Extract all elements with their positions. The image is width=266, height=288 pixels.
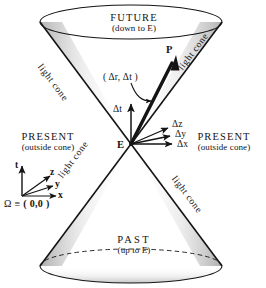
present-right-subtitle: (outside cone) [184,143,264,153]
axis-label-t: t [15,160,18,170]
axis-z-arrow [22,176,50,196]
vector-label-delta-t: Δt [113,104,122,114]
point-P-label: P [166,44,173,55]
present-right-title: PRESENT [188,131,260,142]
interval-text: ( Δr, Δt ) [103,72,138,82]
lightcone-figure: FUTURE (down to E) PAST (up to E) PRESEN… [0,0,266,288]
origin-value: ( 0,0 ) [23,198,49,209]
future-title: FUTURE [99,12,169,23]
axis-label-y: y [55,179,60,189]
interval-label: ( Δr, Δt ) [103,72,138,82]
vector-label-delta-x: Δx [177,139,188,149]
present-left-title: PRESENT [12,131,84,142]
origin-symbol: Ω [4,198,12,209]
past-cone-shade-bottom [40,266,222,283]
event-E-label: E [117,139,124,150]
past-subtitle: (up to E) [99,246,169,256]
future-subtitle: (down to E) [94,24,174,34]
event-apex-dot [129,142,133,146]
axis-label-z: z [50,167,54,177]
origin-relation: ≡ [15,198,21,209]
vector-label-delta-y: Δy [175,129,186,139]
axis-y-arrow [22,186,53,196]
vector-label-delta-z: Δz [172,119,183,129]
origin-definition: Ω ≡ ( 0,0 ) [4,198,50,209]
past-title: PAST [104,234,164,245]
axis-label-x: x [58,190,63,200]
